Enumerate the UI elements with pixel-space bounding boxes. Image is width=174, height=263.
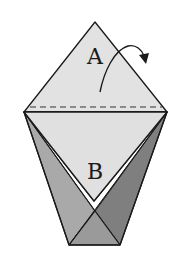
origami-diagram: A B xyxy=(0,0,174,263)
label-a: A xyxy=(86,44,104,69)
label-b: B xyxy=(87,159,103,184)
arrowhead-icon xyxy=(139,53,149,64)
